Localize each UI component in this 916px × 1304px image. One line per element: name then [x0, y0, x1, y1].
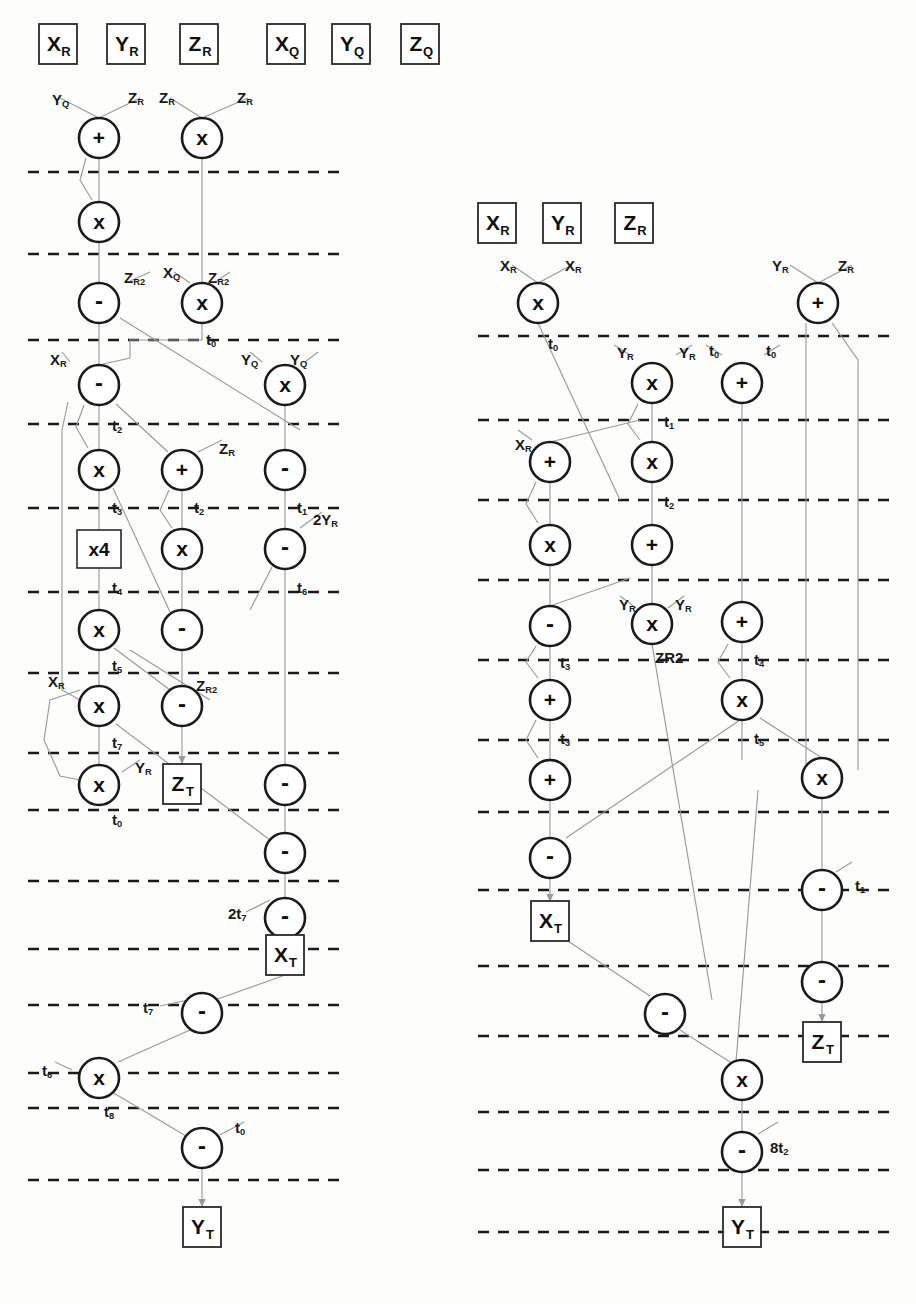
- operator-node-mul[interactable]: x: [530, 525, 570, 565]
- operator-node-sub[interactable]: -: [265, 450, 305, 490]
- operator-node-add[interactable]: +: [530, 442, 570, 482]
- operator-node-mul[interactable]: x: [802, 758, 842, 798]
- operator-node-add[interactable]: +: [530, 760, 570, 800]
- operator-node-mul[interactable]: x: [632, 442, 672, 482]
- operator-node-sub[interactable]: -: [265, 529, 305, 569]
- svg-text:-: -: [818, 966, 826, 993]
- left-wire-label: ZR2: [208, 270, 229, 287]
- wire: [80, 158, 92, 200]
- wire: [112, 1092, 186, 1136]
- operator-node-sub[interactable]: -: [722, 1132, 762, 1172]
- operator-node-mul[interactable]: x: [632, 363, 672, 403]
- operator-node-add[interactable]: +: [162, 450, 202, 490]
- operator-node-sub[interactable]: -: [530, 606, 570, 646]
- operator-node-add[interactable]: +: [722, 363, 762, 403]
- operator-node-sub[interactable]: -: [182, 1128, 222, 1168]
- svg-text:Y: Y: [340, 32, 354, 55]
- operator-node-add[interactable]: +: [632, 525, 672, 565]
- svg-text:x: x: [93, 1066, 105, 1089]
- diagram-canvas: +xx-x-xx+-x4x-x-x-x----x-x+x++xx+-x++x+x…: [0, 0, 916, 1304]
- operator-node-sub[interactable]: -: [530, 838, 570, 878]
- svg-text:Z: Z: [189, 32, 202, 55]
- left-input-register[interactable]: YR: [107, 24, 145, 64]
- wire: [832, 323, 858, 770]
- svg-text:+: +: [736, 371, 748, 394]
- operator-node-sub[interactable]: -: [182, 993, 222, 1033]
- left-input-register[interactable]: YQ: [332, 24, 370, 64]
- svg-text:-: -: [818, 874, 826, 901]
- right-input-register[interactable]: ZR: [615, 203, 653, 243]
- left-input-register[interactable]: ZQ: [401, 24, 439, 64]
- operator-node-mul[interactable]: x: [518, 283, 558, 323]
- svg-text:+: +: [812, 291, 824, 314]
- operator-node-add[interactable]: +: [79, 118, 119, 158]
- operator-node-mul[interactable]: x: [722, 1060, 762, 1100]
- left-output-register[interactable]: YT: [183, 1207, 221, 1247]
- operator-node-sub[interactable]: -: [162, 610, 202, 650]
- left-wire-label: t1: [297, 500, 307, 517]
- right-output-register[interactable]: YT: [723, 1207, 761, 1247]
- svg-text:x: x: [646, 371, 658, 394]
- svg-text:-: -: [281, 837, 289, 864]
- left-input-register[interactable]: XQ: [267, 24, 305, 64]
- svg-text:x: x: [93, 458, 105, 481]
- operator-node-mul[interactable]: x: [722, 680, 762, 720]
- svg-text:R: R: [129, 44, 139, 59]
- operator-node-mul[interactable]: x: [79, 686, 119, 726]
- operator-node-sub[interactable]: -: [265, 765, 305, 805]
- svg-text:T: T: [554, 921, 562, 936]
- left-output-register[interactable]: XT: [266, 935, 304, 975]
- svg-text:+: +: [176, 458, 188, 481]
- left-wire-label: 2YR: [313, 512, 338, 529]
- svg-text:Z: Z: [812, 1030, 825, 1053]
- operator-node-mul[interactable]: x: [162, 529, 202, 569]
- svg-text:-: -: [281, 454, 289, 481]
- operator-node-mul[interactable]: x: [79, 610, 119, 650]
- svg-text:x: x: [736, 1068, 748, 1091]
- wire: [99, 323, 202, 365]
- operator-node-sub[interactable]: -: [79, 365, 119, 405]
- operator-node-mul[interactable]: x: [79, 765, 119, 805]
- operator-node-add[interactable]: +: [530, 680, 570, 720]
- scale-op-node[interactable]: x4: [77, 530, 121, 568]
- right-output-register[interactable]: ZT: [803, 1022, 841, 1062]
- left-wire-label: t7: [112, 735, 122, 752]
- right-input-register[interactable]: YR: [543, 203, 581, 243]
- operator-node-mul[interactable]: x: [632, 604, 672, 644]
- left-wire-label: ZR: [159, 90, 175, 107]
- operator-node-mul[interactable]: x: [79, 450, 119, 490]
- operator-node-sub[interactable]: -: [265, 898, 305, 938]
- operator-node-add[interactable]: +: [798, 283, 838, 323]
- wire: [758, 1122, 778, 1134]
- left-wire-label: ZR: [237, 90, 253, 107]
- operator-node-sub[interactable]: -: [265, 833, 305, 873]
- operator-node-sub[interactable]: -: [645, 994, 685, 1034]
- operator-node-mul[interactable]: x: [182, 283, 222, 323]
- svg-text:x: x: [196, 291, 208, 314]
- right-wire-label: YR: [675, 597, 692, 614]
- operator-node-mul[interactable]: x: [79, 1058, 119, 1098]
- left-input-register[interactable]: XR: [39, 24, 77, 64]
- operator-node-sub[interactable]: -: [802, 962, 842, 1002]
- wire: [550, 578, 630, 606]
- left-input-register[interactable]: ZR: [180, 24, 218, 64]
- operator-node-add[interactable]: +: [722, 602, 762, 642]
- operator-node-sub[interactable]: -: [802, 870, 842, 910]
- right-input-register[interactable]: XR: [478, 203, 516, 243]
- svg-text:T: T: [826, 1042, 834, 1057]
- operator-node-sub[interactable]: -: [79, 283, 119, 323]
- operator-node-mul[interactable]: x: [79, 202, 119, 242]
- wire: [114, 648, 170, 690]
- operator-node-mul[interactable]: x: [265, 365, 305, 405]
- svg-text:R: R: [637, 223, 647, 238]
- right-wire-label: t1: [664, 414, 674, 431]
- left-wire-label: t2: [112, 418, 122, 435]
- svg-text:T: T: [186, 784, 194, 799]
- right-output-register[interactable]: XT: [531, 901, 569, 941]
- left-wire-label: 2t7: [228, 906, 247, 923]
- svg-text:x: x: [196, 126, 208, 149]
- left-wire-label: YR: [135, 760, 152, 777]
- operator-node-mul[interactable]: x: [182, 118, 222, 158]
- left-output-register[interactable]: ZT: [163, 764, 201, 804]
- wire: [836, 862, 852, 872]
